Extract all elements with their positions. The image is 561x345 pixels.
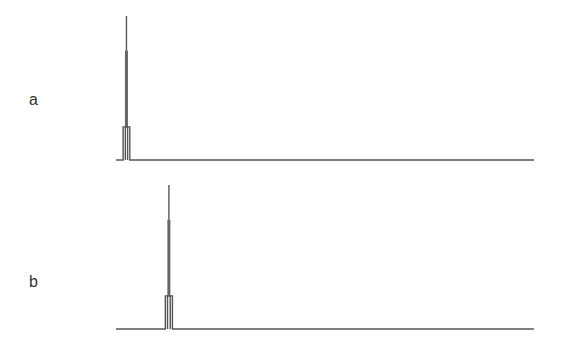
figure: a b xyxy=(0,0,561,345)
panel-b: b xyxy=(29,185,534,329)
panel-label-b: b xyxy=(29,273,38,290)
panel-label-a: a xyxy=(29,91,38,108)
trace-a xyxy=(116,127,534,160)
peak-inner-a xyxy=(125,127,127,160)
trace-b xyxy=(116,296,534,329)
peak-inner-b xyxy=(168,296,171,329)
panel-a: a xyxy=(29,16,534,160)
